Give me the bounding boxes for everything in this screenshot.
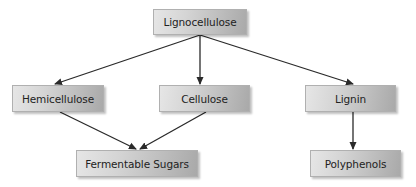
node-label: Hemicellulose [22, 93, 94, 105]
node-polyphenols: Polyphenols [310, 150, 401, 177]
node-label: Fermentable Sugars [85, 158, 189, 170]
node-label: Lignocellulose [163, 16, 236, 28]
arrow-hemicellulose-to-fermentable_sugars [60, 112, 136, 149]
node-lignocellulose: Lignocellulose [153, 9, 247, 35]
arrow-lignocellulose-to-hemicellulose [55, 35, 200, 84]
node-label: Cellulose [181, 93, 228, 105]
node-lignin: Lignin [305, 85, 396, 112]
arrow-cellulose-to-fermentable_sugars [140, 112, 206, 149]
node-hemicellulose: Hemicellulose [12, 85, 104, 112]
diagram-canvas: Lignocellulose Hemicellulose Cellulose L… [0, 0, 416, 187]
arrow-lignocellulose-to-lignin [200, 35, 353, 84]
node-label: Lignin [335, 93, 366, 105]
node-cellulose: Cellulose [159, 85, 250, 112]
node-fermentable-sugars: Fermentable Sugars [76, 150, 198, 177]
node-label: Polyphenols [325, 158, 387, 170]
